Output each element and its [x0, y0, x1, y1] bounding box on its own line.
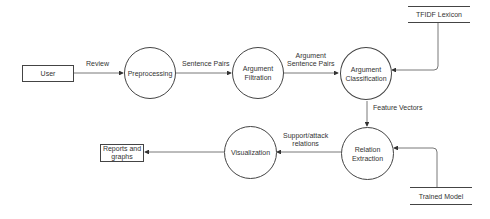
- process-relation-label-1: Relation: [355, 145, 381, 154]
- entity-reports-label-2: graphs: [111, 153, 132, 161]
- process-visualization: Visualization: [224, 126, 277, 179]
- process-relation-label-2: Extraction: [352, 154, 383, 163]
- entity-reports: Reports and graphs: [100, 144, 144, 162]
- flow-label-support-attack-1: Support/attack: [283, 132, 328, 140]
- process-argument-classification: Argument Classification: [340, 47, 392, 100]
- process-argument-filtration: Argument Filtration: [232, 47, 284, 99]
- entity-reports-label-1: Reports and: [103, 145, 141, 153]
- datastore-tfidf-lexicon: TFIDF Lexicon: [408, 6, 470, 23]
- process-classification-label-2: Classification: [345, 74, 386, 83]
- process-relation-extraction: Relation Extraction: [341, 127, 394, 180]
- flow-label-argument-pairs: Argument Sentence Pairs: [287, 52, 334, 68]
- entity-user-label: User: [41, 70, 56, 78]
- flow-label-support-attack: Support/attack relations: [283, 132, 328, 148]
- process-preprocessing-label: Preprocessing: [128, 69, 173, 78]
- datastore-tfidf-label: TFIDF Lexicon: [416, 11, 462, 18]
- datastore-model-label: Trained Model: [419, 193, 464, 200]
- flow-tfidf-arrow: [392, 22, 438, 70]
- process-preprocessing: Preprocessing: [124, 47, 176, 99]
- flow-model-arrow: [394, 148, 437, 187]
- process-filtration-label-1: Argument: [243, 64, 273, 73]
- flow-label-support-attack-2: relations: [283, 140, 328, 148]
- process-visualization-label: Visualization: [231, 148, 270, 157]
- flow-label-sentence-pairs: Sentence Pairs: [182, 60, 229, 68]
- datastore-trained-model: Trained Model: [410, 187, 472, 205]
- process-filtration-label-2: Filtration: [245, 73, 272, 82]
- flow-label-argument-pairs-2: Sentence Pairs: [287, 60, 334, 68]
- entity-user: User: [22, 65, 74, 82]
- flow-label-argument-pairs-1: Argument: [287, 52, 334, 60]
- process-classification-label-1: Argument: [351, 65, 381, 74]
- flow-label-review: Review: [86, 60, 109, 68]
- flow-label-feature-vectors: Feature Vectors: [373, 104, 422, 112]
